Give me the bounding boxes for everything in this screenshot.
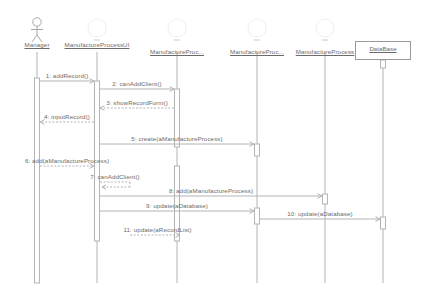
message-label-4: 4: inputRecord() [44, 113, 90, 120]
participant-label-proc3: ManufactureProcess [296, 48, 355, 55]
message-arrow-1[interactable] [40, 79, 94, 84]
circle-icon-proc2 [248, 19, 266, 37]
message-label-5: 5: create(aManufactureProcess) [131, 135, 222, 142]
activation-bar-manager [35, 78, 40, 283]
participant-label-proc2: ManufactureProc... [230, 48, 284, 55]
participant-label-database: DataBase [355, 45, 411, 52]
message-label-8: 8: add(aManufactureProcess) [169, 187, 253, 194]
message-label-3: 3: showRecordForm() [106, 99, 168, 106]
circle-icon-ui [88, 19, 106, 37]
circle-icon-proc1 [168, 19, 186, 37]
activation-bar-database [381, 217, 386, 229]
message-label-6: 6: add(aManufactureProcess) [25, 157, 109, 164]
circle-icon-proc3 [316, 19, 334, 37]
message-arrow-4[interactable] [40, 120, 94, 125]
message-label-10: 10: update(aDatabase) [287, 210, 352, 217]
participant-label-proc1: ManufactureProc... [150, 48, 204, 55]
message-arrow-2[interactable] [100, 87, 174, 92]
message-arrow-6[interactable] [40, 164, 94, 169]
message-arrow-11[interactable] [130, 233, 180, 238]
message-label-7: 7: canAddClient() [90, 173, 140, 180]
message-label-11: 11: update(aRecordList) [123, 226, 191, 233]
message-label-2: 2: canAddClient() [112, 80, 162, 87]
sequence-diagram-canvas: ManagerManufactureProcessUIManufacturePr… [0, 0, 423, 299]
activation-bar-proc3 [323, 194, 328, 204]
activation-bar-database [381, 60, 386, 68]
actor-stick-figure-icon [31, 18, 43, 42]
message-label-9: 9: update(aDatabase) [146, 202, 208, 209]
participant-label-manager: Manager [24, 41, 49, 48]
message-label-1: 1: addRecord() [46, 72, 89, 79]
lifelines-group [37, 52, 383, 283]
activation-bar-proc2 [255, 208, 260, 224]
activation-bar-proc2 [255, 144, 260, 156]
message-arrow-3[interactable] [100, 106, 174, 111]
message-arrow-10[interactable] [260, 217, 380, 222]
message-arrow-7[interactable] [100, 182, 130, 189]
participant-icons-group [31, 18, 334, 42]
message-arrow-8[interactable] [100, 194, 322, 199]
activation-bars-group [35, 60, 386, 283]
participant-label-ui: ManufactureProcessUI [65, 41, 130, 48]
